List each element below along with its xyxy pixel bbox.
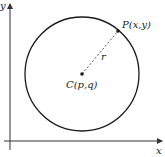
point-label: P(x,y) bbox=[121, 19, 151, 30]
circle-point bbox=[116, 29, 120, 33]
radius-line bbox=[82, 31, 118, 74]
center-point bbox=[80, 72, 84, 76]
x-axis-label: x bbox=[156, 145, 162, 156]
radius-label: r bbox=[101, 51, 107, 62]
y-axis-label: y bbox=[0, 0, 6, 11]
center-label: C(p,q) bbox=[66, 79, 98, 90]
circle-diagram: y x P(x,y) r C(p,q) bbox=[0, 0, 165, 157]
